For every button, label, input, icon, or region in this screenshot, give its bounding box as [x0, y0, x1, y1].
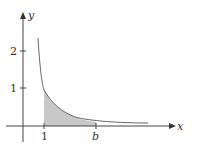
x-axis-label: x	[177, 120, 184, 133]
x-axis-arrow-icon	[169, 123, 176, 129]
x-tick-label-b: b	[92, 130, 99, 143]
x-tick-label-1: 1	[41, 130, 48, 143]
y-axis-label: y	[27, 9, 35, 22]
diagram: y x 2 1 1 b	[0, 0, 198, 152]
y-axis-arrow-icon	[20, 12, 26, 19]
y-tick-label-1: 1	[10, 82, 17, 95]
y-tick-label-2: 2	[10, 45, 17, 58]
shaded-area	[44, 90, 96, 126]
